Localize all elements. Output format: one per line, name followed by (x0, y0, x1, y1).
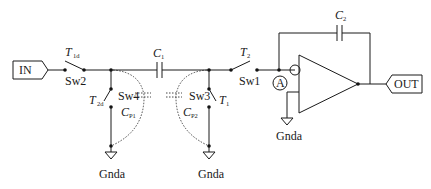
switch-sw1: T 2 Sw1 (229, 45, 260, 88)
node-a-marker: A (273, 76, 287, 90)
svg-text:A: A (276, 76, 285, 90)
sw2-phase: T (65, 45, 73, 59)
ground-2: Gnda (198, 146, 225, 181)
svg-text:Gnda: Gnda (198, 167, 225, 181)
svg-text:Gnda: Gnda (276, 129, 303, 143)
op-amp (290, 55, 360, 113)
parasitic-cp1: C P1 (113, 70, 151, 145)
parasitic-cp2: C P2 (166, 70, 207, 145)
switch-sw4: Sw4 T 2d (89, 70, 139, 148)
switch-sw2: T 1d Sw2 (63, 45, 86, 88)
svg-text:P2: P2 (191, 112, 198, 119)
svg-text:2: 2 (343, 15, 346, 22)
capacitor-c2: C 2 (279, 8, 370, 84)
circuit-diagram: IN T 1d Sw2 C 1 Sw4 T 2d Gnda (0, 0, 431, 189)
svg-text:1: 1 (161, 53, 164, 60)
output-port-label: OUT (394, 77, 419, 91)
switch-sw3: Sw3 T 1 (189, 70, 229, 148)
svg-text:Gnda: Gnda (99, 167, 126, 181)
sw2-label: Sw2 (65, 74, 86, 88)
sw4-label: Sw4 (118, 89, 139, 103)
svg-text:P1: P1 (129, 112, 136, 119)
ground-1: Gnda (99, 146, 126, 181)
input-port: IN (13, 61, 48, 79)
capacitor-c1: C 1 (153, 46, 164, 78)
svg-text:1: 1 (226, 100, 229, 107)
sw4-phase: T (89, 93, 97, 107)
svg-text:2d: 2d (97, 100, 104, 107)
output-port: OUT (386, 75, 422, 93)
sw3-label: Sw3 (189, 89, 210, 103)
input-port-label: IN (19, 63, 32, 77)
sw1-label: Sw1 (239, 74, 260, 88)
svg-text:2: 2 (247, 52, 250, 59)
svg-text:1d: 1d (73, 52, 80, 59)
